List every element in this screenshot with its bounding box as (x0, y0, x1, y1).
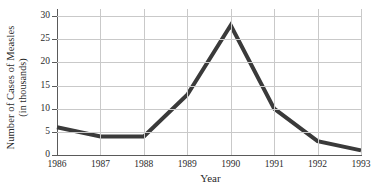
y-tick-mark (52, 86, 57, 87)
gridline-vertical (144, 9, 145, 155)
y-tick-label: 30 (4, 11, 50, 21)
x-tick-label: 1986 (37, 159, 77, 170)
y-tick-label: 5 (4, 127, 50, 137)
x-tick-label: 1992 (298, 159, 338, 170)
gridline-vertical (100, 9, 101, 155)
gridline-horizontal (57, 62, 361, 63)
y-tick-label: 25 (4, 34, 50, 44)
x-tick-label: 1989 (167, 159, 207, 170)
y-tick-label: 10 (4, 104, 50, 114)
gridline-vertical (231, 9, 232, 155)
measles-line-chart: Number of Cases of Measles (in thousands… (0, 0, 381, 191)
x-tick-label: 1988 (124, 159, 164, 170)
x-tick-label: 1993 (341, 159, 381, 170)
gridline-horizontal (57, 39, 361, 40)
x-tick-label-group: 19861987198819891990199119921993 (0, 159, 381, 173)
y-tick-label: 20 (4, 57, 50, 67)
x-axis-line (57, 155, 362, 156)
gridline-vertical (361, 9, 362, 155)
y-tick-mark (52, 62, 57, 63)
gridline-vertical (318, 9, 319, 155)
y-tick-mark (52, 39, 57, 40)
x-axis-title: Year (0, 172, 381, 185)
gridline-horizontal (57, 16, 361, 17)
y-tick-mark (52, 109, 57, 110)
gridline-vertical (187, 9, 188, 155)
plot-area (57, 16, 361, 155)
y-tick-mark (52, 132, 57, 133)
x-tick-label: 1991 (254, 159, 294, 170)
y-tick-label: 15 (4, 81, 50, 91)
x-tick-label: 1987 (80, 159, 120, 170)
gridline-horizontal (57, 86, 361, 87)
gridline-horizontal (57, 132, 361, 133)
gridline-horizontal (57, 109, 361, 110)
x-tick-label: 1990 (211, 159, 251, 170)
y-tick-mark (52, 155, 57, 156)
gridline-vertical (274, 9, 275, 155)
y-tick-mark (52, 16, 57, 17)
